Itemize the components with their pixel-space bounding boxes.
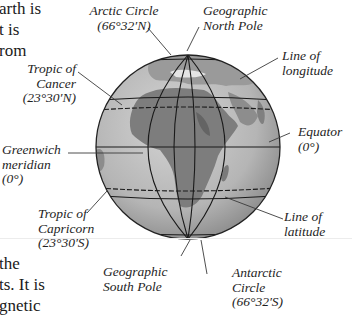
label-arctic-circle: Arctic Circle (66°32′N) [86, 4, 162, 33]
body-text-line: the [0, 253, 45, 274]
body-text-top: arth is t is rom [0, 0, 41, 61]
leader-north-pole [187, 27, 199, 51]
leader-south-pole [181, 240, 190, 256]
leader-antarctic [201, 240, 207, 274]
label-antarctic-circle: Antarctic Circle (66°32′S) [232, 266, 283, 310]
body-text-line: gnetic [0, 295, 45, 316]
label-greenwich-meridian: Greenwich meridian (0°) [2, 143, 61, 187]
label-line-of-longitude: Line of longitude [282, 49, 333, 78]
label-tropic-of-capricorn: Tropic of Capricorn (23°30′S) [38, 207, 94, 251]
label-north-pole: Geographic North Pole [203, 4, 268, 33]
body-text-line: rom [0, 40, 41, 61]
leader-tropic-cancer [78, 72, 122, 105]
leader-longitude [240, 58, 278, 79]
body-text-line: arth is [0, 0, 41, 19]
body-text-bottom: the ts. It is gnetic [0, 253, 45, 316]
body-text-line: ts. It is [0, 274, 45, 295]
globe [95, 55, 281, 239]
label-tropic-of-cancer: Tropic of Cancer (23°30′N) [10, 62, 76, 106]
label-line-of-latitude: Line of latitude [284, 210, 325, 239]
label-south-pole: Geographic South Pole [103, 265, 168, 294]
label-equator: Equator (0°) [298, 125, 342, 154]
body-text-line: t is [0, 19, 41, 40]
